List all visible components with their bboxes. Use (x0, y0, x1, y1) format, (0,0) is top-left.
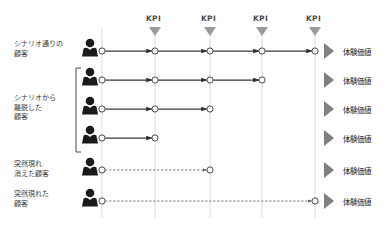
value-label: 体験価値 (343, 104, 371, 115)
journey-node (99, 77, 105, 83)
customer-journey-diagram (0, 0, 386, 233)
value-label: 体験価値 (343, 75, 371, 86)
kpi-label-3: KPI (253, 14, 268, 23)
kpi-label-2: KPI (201, 14, 216, 23)
kpi-label-1: KPI (146, 14, 161, 23)
journey-node (152, 77, 158, 83)
category-label-suddenly-appeared: 突然現れた 顧客 (14, 190, 49, 209)
person-head-icon (86, 97, 95, 106)
kpi-label-4: KPI (306, 14, 321, 23)
journey-node (99, 135, 105, 141)
value-label: 体験価値 (343, 165, 371, 176)
journey-node (99, 198, 105, 204)
person-head-icon (86, 189, 95, 198)
person-head-icon (86, 68, 95, 77)
person-head-icon (86, 39, 95, 48)
category-label-scenario-dropout: シナリオから 離脱した 顧客 (14, 94, 56, 123)
journey-node (99, 106, 105, 112)
journey-node (312, 48, 318, 54)
journey-node (207, 48, 213, 54)
category-label-scenario-as-planned: シナリオ通りの 顧客 (14, 40, 63, 59)
value-label: 体験価値 (343, 196, 371, 207)
journey-node (152, 106, 158, 112)
value-label: 体験価値 (343, 46, 371, 57)
journey-node (152, 135, 158, 141)
journey-node (207, 167, 213, 173)
journey-node (99, 48, 105, 54)
journey-node (152, 48, 158, 54)
category-label-appeared-and-vanished: 突然現れ 消えた顧客 (14, 160, 49, 179)
person-head-icon (86, 126, 95, 135)
journey-node (259, 48, 265, 54)
journey-node (312, 198, 318, 204)
journey-node (259, 77, 265, 83)
journey-node (207, 77, 213, 83)
journey-node (99, 167, 105, 173)
journey-node (207, 106, 213, 112)
value-label: 体験価値 (343, 133, 371, 144)
person-head-icon (86, 158, 95, 167)
